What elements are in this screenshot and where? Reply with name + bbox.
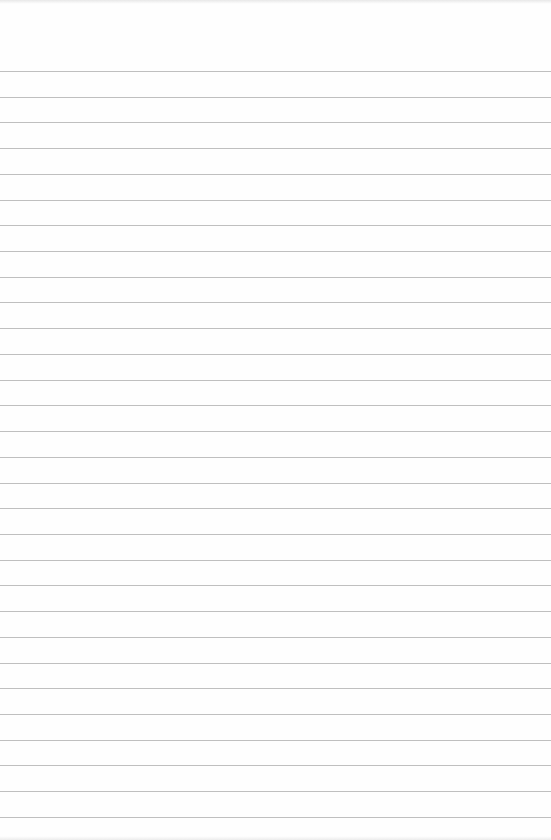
ruled-line [0, 534, 551, 535]
ruled-line [0, 302, 551, 303]
ruled-line [0, 328, 551, 329]
bottom-edge [0, 836, 551, 840]
ruled-line [0, 71, 551, 72]
ruled-line [0, 585, 551, 586]
ruled-line [0, 405, 551, 406]
ruled-line [0, 380, 551, 381]
ruled-line [0, 765, 551, 766]
ruled-line [0, 663, 551, 664]
ruled-line [0, 200, 551, 201]
lined-paper-page [0, 0, 551, 840]
ruled-line [0, 508, 551, 509]
ruled-line [0, 560, 551, 561]
ruled-line [0, 457, 551, 458]
ruled-line [0, 688, 551, 689]
ruled-line [0, 148, 551, 149]
ruled-line [0, 714, 551, 715]
top-edge [0, 0, 551, 4]
ruled-line [0, 174, 551, 175]
ruled-line [0, 611, 551, 612]
ruled-line [0, 251, 551, 252]
ruled-line [0, 354, 551, 355]
ruled-line [0, 431, 551, 432]
ruled-line [0, 637, 551, 638]
ruled-line [0, 97, 551, 98]
ruled-line [0, 483, 551, 484]
ruled-line [0, 817, 551, 818]
ruled-line [0, 225, 551, 226]
ruled-line [0, 791, 551, 792]
ruled-line [0, 122, 551, 123]
ruled-line [0, 277, 551, 278]
ruled-line [0, 740, 551, 741]
